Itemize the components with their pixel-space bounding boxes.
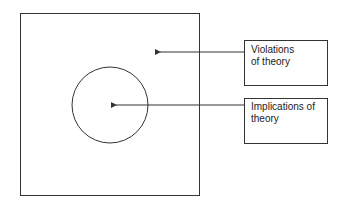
violations-label: Violations of theory [251, 44, 294, 68]
implications-label: Implications of theory [251, 101, 315, 125]
implications-label-line1: Implications of [251, 101, 315, 113]
implications-label-line2: theory [251, 113, 315, 125]
violations-label-line2: of theory [251, 56, 294, 68]
violations-label-line1: Violations [251, 44, 294, 56]
diagram: Violations of theory Implications of the… [0, 0, 344, 203]
